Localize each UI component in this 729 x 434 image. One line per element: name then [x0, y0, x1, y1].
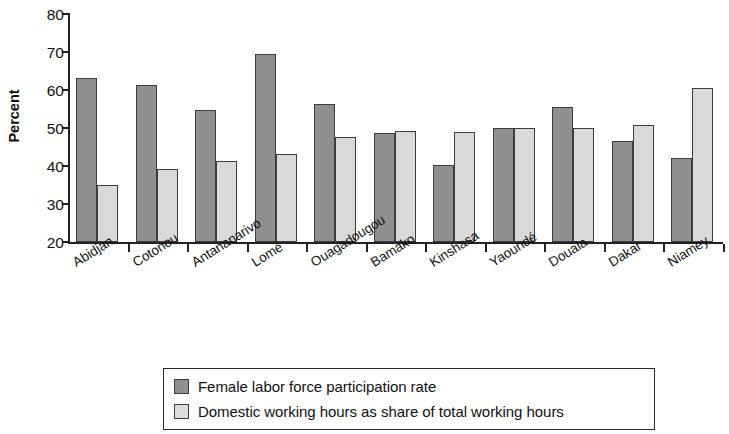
x-axis-tick — [663, 244, 665, 252]
y-axis-tick-label: 20 — [47, 234, 64, 252]
y-axis-tick-label: 70 — [47, 44, 64, 62]
bar — [276, 154, 297, 242]
bar — [514, 128, 535, 242]
bar — [314, 104, 335, 242]
bar — [454, 132, 475, 242]
y-axis-tick-label: 30 — [47, 196, 64, 214]
y-axis-tick-label: 60 — [47, 82, 64, 100]
x-axis-tick — [366, 244, 368, 252]
chart-legend: Female labor force participation rate Do… — [163, 368, 655, 430]
x-axis-tick — [723, 244, 725, 252]
x-axis-tick — [544, 244, 546, 252]
bar — [633, 125, 654, 242]
bar — [335, 137, 356, 242]
y-axis-tick-label: 40 — [47, 158, 64, 176]
legend-swatch-light-icon — [174, 404, 189, 419]
x-axis-tick — [306, 244, 308, 252]
chart-figure: Percent 20304050607080 AbidjanCotonouAnt… — [0, 0, 729, 434]
x-axis-tick — [128, 244, 130, 252]
bar — [671, 158, 692, 242]
x-axis-tick — [425, 244, 427, 252]
bar — [573, 128, 594, 242]
legend-entry-female-labor: Female labor force participation rate — [174, 375, 436, 397]
bar — [255, 54, 276, 242]
x-axis-tick — [485, 244, 487, 252]
y-axis-tick-label: 50 — [47, 120, 64, 138]
bar — [195, 110, 216, 242]
bar — [493, 128, 514, 242]
bar — [612, 141, 633, 242]
bar — [136, 85, 157, 242]
bar — [76, 78, 97, 242]
bar — [552, 107, 573, 242]
y-axis-title: Percent — [6, 71, 22, 161]
legend-swatch-dark-icon — [174, 379, 189, 394]
plot-area: 20304050607080 — [68, 13, 723, 244]
bar — [692, 88, 713, 242]
x-axis-tick — [187, 244, 189, 252]
bar — [395, 131, 416, 242]
bar — [157, 169, 178, 242]
y-axis-tick-label: 80 — [47, 6, 64, 24]
legend-entry-domestic-hours: Domestic working hours as share of total… — [174, 400, 564, 422]
legend-label: Domestic working hours as share of total… — [198, 403, 564, 420]
legend-label: Female labor force participation rate — [198, 378, 436, 395]
x-axis-tick — [247, 244, 249, 252]
bar — [433, 165, 454, 242]
x-axis-tick — [604, 244, 606, 252]
